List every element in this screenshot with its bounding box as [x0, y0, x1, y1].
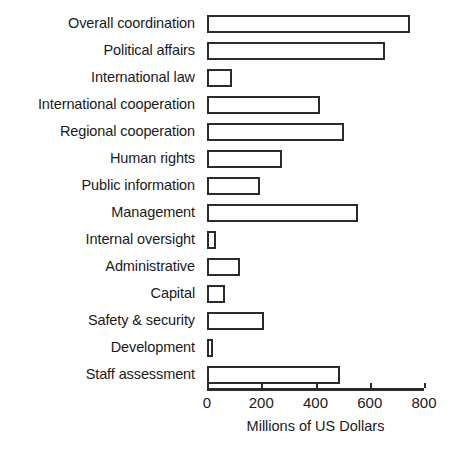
- bar: [207, 177, 260, 195]
- bar-row: [207, 334, 427, 361]
- category-label-row: Safety & security: [0, 307, 201, 334]
- category-label-row: Administrative: [0, 253, 201, 280]
- category-label: Political affairs: [103, 43, 195, 58]
- category-label: International cooperation: [38, 97, 195, 112]
- category-label: Administrative: [105, 259, 195, 274]
- bar: [207, 312, 264, 330]
- category-label-row: Capital: [0, 280, 201, 307]
- category-label-row: Regional cooperation: [0, 118, 201, 145]
- bar-row: [207, 37, 427, 64]
- bar: [207, 285, 225, 303]
- bar: [207, 231, 216, 249]
- x-axis: 0200400600800: [207, 388, 424, 389]
- category-label: Internal oversight: [86, 232, 195, 247]
- bar: [207, 123, 344, 141]
- category-axis-labels: Overall coordination Political affairs I…: [0, 10, 201, 388]
- category-label-row: Human rights: [0, 145, 201, 172]
- bar: [207, 204, 358, 222]
- category-label: Regional cooperation: [60, 124, 195, 139]
- category-label: International law: [91, 70, 195, 85]
- category-label: Human rights: [110, 151, 195, 166]
- bar-row: [207, 307, 427, 334]
- bar-row: [207, 118, 427, 145]
- x-axis-title: Millions of US Dollars: [207, 418, 424, 434]
- bar: [207, 42, 385, 60]
- bar-row: [207, 91, 427, 118]
- bar: [207, 15, 410, 33]
- bar-row: [207, 199, 427, 226]
- x-axis-tick: [424, 383, 426, 388]
- x-axis-tick-label: 600: [357, 394, 382, 411]
- bar: [207, 96, 320, 114]
- category-label-row: Political affairs: [0, 37, 201, 64]
- category-label-row: Overall coordination: [0, 10, 201, 37]
- bar-row: [207, 226, 427, 253]
- x-axis-line: [207, 388, 424, 391]
- bar: [207, 258, 240, 276]
- x-axis-tick-label: 800: [411, 394, 436, 411]
- bar-chart: Overall coordination Political affairs I…: [0, 0, 470, 456]
- bar-row: [207, 280, 427, 307]
- plot-area: [207, 10, 427, 388]
- category-label-row: International cooperation: [0, 91, 201, 118]
- x-axis-tick: [207, 383, 209, 388]
- category-label-row: Public information: [0, 172, 201, 199]
- category-label: Capital: [151, 286, 195, 301]
- bar: [207, 339, 213, 357]
- category-label-row: Staff assessment: [0, 361, 201, 388]
- bar: [207, 366, 340, 384]
- category-label: Staff assessment: [86, 367, 195, 382]
- category-label: Development: [111, 340, 195, 355]
- bar-row: [207, 145, 427, 172]
- x-axis-tick-label: 200: [249, 394, 274, 411]
- bar: [207, 150, 282, 168]
- category-label: Management: [111, 205, 195, 220]
- x-axis-tick: [261, 383, 263, 388]
- category-label: Overall coordination: [68, 16, 195, 31]
- category-label-row: Internal oversight: [0, 226, 201, 253]
- bar-row: [207, 64, 427, 91]
- x-axis-tick-label: 400: [303, 394, 328, 411]
- category-label-row: Management: [0, 199, 201, 226]
- category-label: Safety & security: [88, 313, 195, 328]
- bar-row: [207, 172, 427, 199]
- category-label: Public information: [82, 178, 195, 193]
- bar: [207, 69, 232, 87]
- x-axis-tick-label: 0: [203, 394, 211, 411]
- x-axis-tick: [316, 383, 318, 388]
- x-axis-tick: [370, 383, 372, 388]
- bar-row: [207, 253, 427, 280]
- bar-row: [207, 10, 427, 37]
- category-label-row: International law: [0, 64, 201, 91]
- category-label-row: Development: [0, 334, 201, 361]
